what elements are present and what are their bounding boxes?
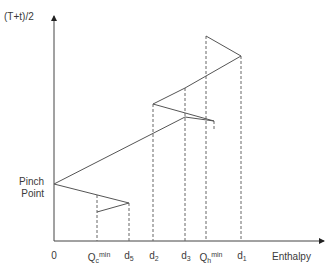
diagram-canvas	[0, 0, 333, 273]
x-axis-label: Enthalpy	[272, 252, 311, 262]
tick-d2: d2	[149, 251, 158, 262]
pinch-point-label: Pinch Point	[19, 176, 44, 200]
tick-d5: d5	[124, 251, 133, 262]
hot-composite-curve	[54, 36, 241, 184]
cold-composite-curve	[54, 184, 129, 212]
tick-d3: d3	[181, 251, 190, 262]
tick-zero: 0	[51, 251, 57, 261]
pinch-label-line2: Point	[19, 188, 44, 200]
tick-d1: d1	[237, 251, 246, 262]
dashed-guides	[97, 36, 241, 241]
pinch-label-line1: Pinch	[19, 176, 44, 188]
tick-qh-min: Qhmin	[200, 251, 223, 264]
y-axis-label: (T+t)/2	[4, 12, 34, 22]
tick-qc-min: Qcmin	[88, 251, 111, 264]
